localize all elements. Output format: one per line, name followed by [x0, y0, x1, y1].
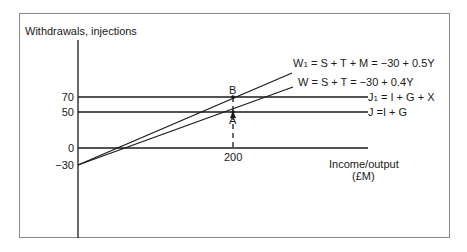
w-equation-label: W = S + T = −30 + 0.4Y: [298, 76, 413, 88]
x-axis-label-line2: (£M): [352, 170, 375, 182]
w1-rest: = S + T + M = −30 + 0.5Y: [308, 57, 435, 69]
point-a-label: A: [229, 114, 236, 126]
j1-rest: = I + G + X: [378, 91, 435, 103]
x-tick-200: 200: [224, 151, 242, 163]
w1-line: [78, 73, 292, 165]
y-tick-minus30: −30: [44, 159, 74, 171]
w1-prefix: W: [293, 57, 303, 69]
y-tick-70: 70: [44, 91, 74, 103]
diagram-canvas: [0, 0, 467, 252]
point-b-label: B: [229, 84, 236, 96]
x-axis-label-line1: Income/output: [329, 158, 399, 170]
y-tick-0: 0: [44, 142, 74, 154]
j-equation-label: J =I + G: [368, 106, 407, 118]
y-axis-label: Withdrawals, injections: [25, 25, 137, 37]
y-tick-50: 50: [44, 106, 74, 118]
w-line: [78, 87, 293, 165]
w1-equation-label: W1 = S + T + M = −30 + 0.5Y: [293, 57, 435, 71]
j1-equation-label: J1 = I + G + X: [368, 91, 435, 105]
